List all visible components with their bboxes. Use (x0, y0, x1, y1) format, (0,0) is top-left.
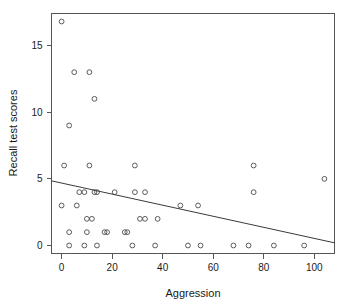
y-tick-label: 15 (31, 40, 43, 51)
y-tick-label: 5 (37, 173, 43, 184)
x-tick-label: 0 (59, 262, 65, 273)
plot-canvas: 020406080100 051015 Aggression Recall te… (0, 0, 346, 306)
x-tick-label: 20 (107, 262, 119, 273)
x-tick-label: 60 (208, 262, 220, 273)
x-tick-label: 80 (258, 262, 270, 273)
y-tick-label: 10 (31, 107, 43, 118)
y-axis-title: Recall test scores (7, 89, 19, 176)
x-tick-label: 40 (157, 262, 169, 273)
x-tick-label: 100 (306, 262, 323, 273)
y-tick-label: 0 (37, 240, 43, 251)
x-axis-title: Aggression (165, 287, 220, 299)
scatter-plot-figure: 020406080100 051015 Aggression Recall te… (0, 0, 346, 306)
